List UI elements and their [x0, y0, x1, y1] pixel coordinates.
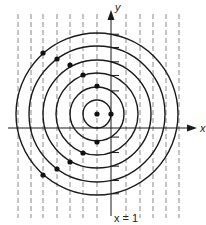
x-axis-arrow-icon [187, 125, 197, 132]
level-curve-diagram: x y x = 1 [0, 0, 206, 225]
point-marker [80, 72, 85, 77]
point-marker [54, 166, 59, 171]
point-marker [94, 111, 99, 116]
y-axis-label: y [114, 1, 122, 13]
point-marker [108, 111, 113, 116]
point-marker [80, 150, 85, 155]
x-axis-label: x [199, 122, 206, 134]
point-marker [54, 56, 59, 61]
vertical-line-label: x = 1 [114, 212, 138, 224]
marked-points [40, 50, 113, 177]
coordinate-axes [8, 10, 197, 216]
point-marker [67, 62, 72, 67]
point-marker [40, 172, 45, 177]
point-marker [94, 83, 99, 88]
y-axis-arrow-icon [108, 10, 115, 20]
point-marker [40, 50, 45, 55]
point-marker [67, 159, 72, 164]
point-marker [94, 139, 99, 144]
